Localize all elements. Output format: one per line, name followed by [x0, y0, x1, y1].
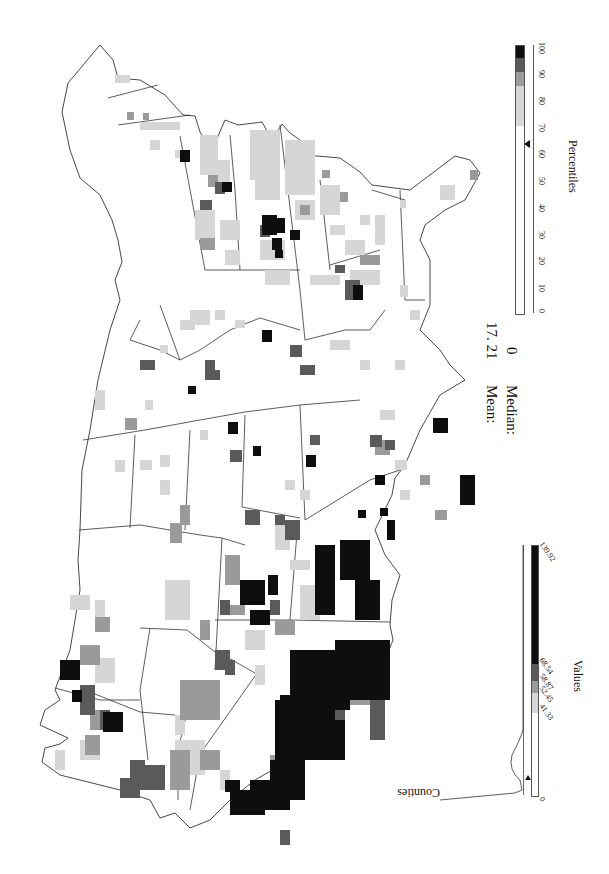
pct-tick-50: 50: [537, 177, 546, 185]
band-black: [516, 46, 524, 58]
pct-tick-40: 40: [537, 204, 546, 212]
value-bar: [531, 545, 539, 797]
value-band-midgray: [532, 681, 538, 693]
value-band-black: [532, 546, 538, 664]
pct-tick-70: 70: [537, 124, 546, 132]
pct-tick-30: 30: [537, 231, 546, 239]
pct-tick-90: 90: [537, 70, 546, 78]
band-darkgray: [516, 58, 524, 72]
count-histogram: [430, 540, 530, 810]
pct-tick-60: 60: [537, 150, 546, 158]
band-midgray: [516, 72, 524, 86]
mean-value: 17. 21: [483, 322, 500, 360]
pct-tick-0: 0: [537, 309, 546, 313]
counties-title: Counties: [397, 785, 440, 800]
pct-tick-10: 10: [537, 284, 546, 292]
percentiles-title: Percentiles: [565, 140, 580, 193]
percentile-marker-icon: [524, 140, 530, 148]
median-value: 0: [503, 347, 520, 355]
value-band-lightgray: [532, 693, 538, 713]
pct-tick-80: 80: [537, 97, 546, 105]
pct-tick-20: 20: [537, 257, 546, 265]
value-band-darkgray: [532, 664, 538, 681]
values-title: Values: [570, 660, 585, 692]
pct-tick-100: 100: [537, 42, 546, 54]
percentile-axis: [533, 45, 534, 313]
band-lightgray: [516, 86, 524, 126]
median-label: Median:: [503, 385, 520, 435]
percentile-legend: [515, 45, 525, 315]
mean-label: Mean:: [483, 385, 500, 423]
histogram-marker-icon: [525, 775, 531, 780]
